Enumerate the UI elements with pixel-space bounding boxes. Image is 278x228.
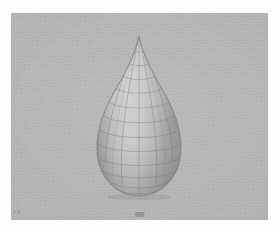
teardrop-wireframe-svg — [84, 34, 194, 200]
screenshot-root: 3.4 · — [0, 0, 278, 228]
bottom-left-annotation: 3.4 — [14, 209, 20, 214]
contact-shadow — [107, 194, 171, 201]
render-viewport[interactable]: 3.4 · — [11, 13, 268, 220]
teardrop-model[interactable] — [84, 34, 194, 200]
bottom-center-annotation: · — [135, 212, 145, 217]
